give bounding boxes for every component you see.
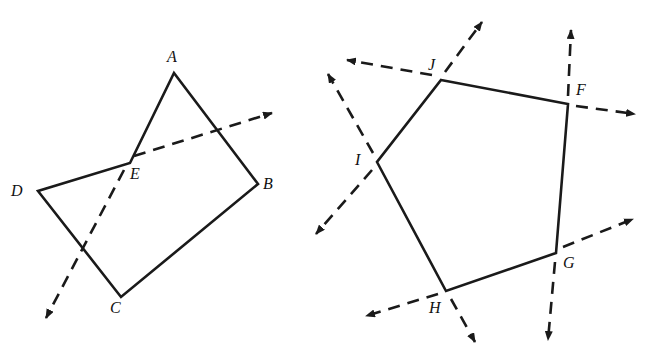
ray-I-down-left (316, 170, 372, 234)
label-A: A (167, 49, 177, 65)
ray-J-left (347, 60, 432, 75)
label-E: E (130, 166, 140, 182)
ray-F-up (568, 30, 571, 96)
ray-G-down (548, 262, 555, 340)
left-figure (38, 73, 272, 318)
label-J: J (428, 57, 435, 73)
label-C: C (110, 300, 121, 316)
pentagon-FGHIJ (377, 80, 568, 291)
ray-J-up-right (445, 22, 482, 72)
label-B: B (263, 176, 273, 192)
ray-E-right (134, 113, 272, 156)
label-H: H (429, 300, 441, 316)
ray-H-down (451, 299, 475, 342)
label-G: G (563, 255, 575, 271)
label-D: D (11, 183, 23, 199)
ray-E-down-left (46, 170, 124, 318)
ray-I-up-left (328, 74, 373, 153)
label-F: F (576, 82, 586, 98)
label-I: I (355, 152, 360, 168)
right-figure (316, 22, 635, 342)
ray-F-right (576, 106, 635, 114)
diagram-canvas: A B C D E J F G H I (0, 0, 647, 354)
ray-H-left (366, 294, 438, 316)
geometry-figures (0, 0, 647, 354)
ray-G-right (563, 219, 633, 247)
polygon-ADEBC (38, 73, 258, 297)
